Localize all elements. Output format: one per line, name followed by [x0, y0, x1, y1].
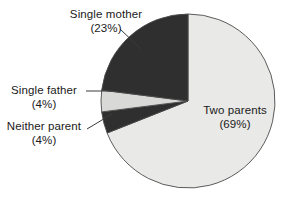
slice-label-two-parents-name: Two parents — [196, 104, 274, 118]
pie-slices-group — [101, 14, 275, 188]
slice-label-single-mother-value: (23%) — [58, 22, 154, 36]
pie-chart-figure: Single mother (23%) Single father (4%) N… — [0, 0, 281, 199]
slice-label-single-father: Single father (4%) — [4, 84, 84, 111]
slice-label-neither-parent-value: (4%) — [0, 134, 88, 148]
slice-label-two-parents: Two parents (69%) — [196, 104, 274, 131]
slice-label-neither-parent: Neither parent (4%) — [0, 120, 88, 147]
slice-label-single-father-value: (4%) — [4, 98, 84, 112]
slice-label-neither-parent-name: Neither parent — [0, 120, 88, 134]
slice-label-single-father-name: Single father — [4, 84, 84, 98]
slice-label-two-parents-value: (69%) — [196, 118, 274, 132]
slice-label-single-mother-name: Single mother — [58, 8, 154, 22]
slice-label-single-mother: Single mother (23%) — [58, 8, 154, 35]
